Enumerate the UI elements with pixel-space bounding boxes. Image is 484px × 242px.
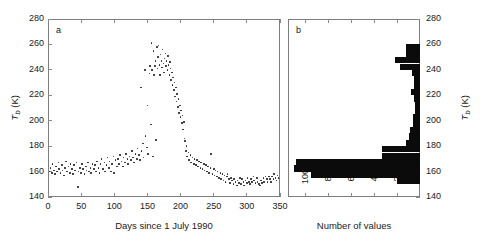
- panel-a-xtick: [246, 193, 247, 197]
- scatter-point: [125, 153, 127, 155]
- histogram-bar: [415, 108, 420, 114]
- scatter-point: [149, 65, 151, 67]
- scatter-point: [161, 67, 163, 69]
- scatter-point: [167, 55, 169, 57]
- panel-a-xtick-label: 250: [200, 202, 228, 211]
- scatter-point: [82, 168, 84, 170]
- scatter-point: [169, 61, 171, 63]
- panel-b-ytick-label: 160: [426, 167, 452, 176]
- panel-b-ytick: [416, 197, 420, 198]
- scatter-point: [155, 60, 157, 62]
- scatter-point: [263, 181, 265, 183]
- scatter-point: [163, 72, 165, 74]
- panel-b-letter: b: [296, 26, 301, 35]
- histogram-bar: [414, 83, 420, 89]
- panel-a-xtick: [213, 193, 214, 197]
- scatter-point: [64, 167, 66, 169]
- panel-b-xtick: [397, 193, 398, 197]
- panel-a-xtick-label: 100: [100, 202, 128, 211]
- histogram-bar: [406, 44, 420, 50]
- scatter-point: [151, 42, 153, 44]
- panel-a-ytick-label: 140: [14, 192, 44, 201]
- panel-a-xtick-top: [246, 19, 247, 23]
- panel-a-ytick-label: 200: [14, 116, 44, 125]
- panel-a-plot-frame: [48, 19, 280, 197]
- panel-b-xtick-top: [351, 19, 352, 23]
- panel-a-ytick: [48, 197, 52, 198]
- scatter-point: [65, 161, 67, 163]
- scatter-point: [74, 170, 76, 172]
- panel-a-xtick-top: [81, 19, 82, 23]
- panel-a-xtick-label: 150: [133, 202, 161, 211]
- panel-a-ytick-label: 240: [14, 65, 44, 74]
- scatter-point: [77, 186, 79, 188]
- histogram-bar: [413, 121, 420, 127]
- scatter-point: [154, 65, 156, 67]
- scatter-point: [152, 156, 154, 158]
- panel-a-ytick-label: 160: [14, 167, 44, 176]
- scatter-point: [178, 112, 180, 114]
- panel-a-ytick-label: 180: [14, 141, 44, 150]
- scatter-point: [54, 173, 56, 175]
- histogram-bar: [414, 76, 420, 82]
- scatter-point: [222, 173, 224, 175]
- scatter-point: [230, 177, 232, 179]
- panel-b-ytick-label: 220: [426, 90, 452, 99]
- panel-a-xtick-label: 300: [233, 202, 261, 211]
- scatter-point: [93, 168, 95, 170]
- panel-a-xtick: [48, 193, 49, 197]
- scatter-point: [270, 181, 272, 183]
- scatter-point: [58, 168, 60, 170]
- scatter-point: [80, 172, 82, 174]
- scatter-point: [157, 56, 159, 58]
- scatter-point: [119, 154, 121, 156]
- panel-a-xtick-top: [213, 19, 214, 23]
- scatter-point: [146, 147, 148, 149]
- scatter-point: [177, 106, 179, 108]
- scatter-point: [111, 163, 113, 165]
- scatter-point: [233, 178, 235, 180]
- scatter-point: [156, 46, 158, 48]
- scatter-point: [145, 135, 147, 137]
- scatter-point: [92, 163, 94, 165]
- scatter-point: [100, 163, 102, 165]
- scatter-point: [63, 175, 65, 177]
- scatter-point: [108, 167, 110, 169]
- histogram-bar: [382, 146, 420, 152]
- scatter-point: [250, 178, 252, 180]
- panel-b-ylabel: Tb (K): [460, 84, 472, 132]
- scatter-point: [263, 177, 265, 179]
- scatter-point: [131, 150, 133, 152]
- scatter-point: [51, 172, 53, 174]
- panel-a-xtick: [81, 193, 82, 197]
- panel-b-ytick-label: 180: [426, 141, 452, 150]
- scatter-point: [113, 172, 115, 174]
- scatter-point: [210, 153, 212, 155]
- panel-b-ytick: [416, 19, 420, 20]
- panel-b-xtick: [328, 193, 329, 197]
- scatter-point: [184, 140, 186, 142]
- scatter-point: [159, 74, 161, 76]
- scatter-point: [188, 159, 190, 161]
- histogram-bar: [311, 172, 420, 178]
- scatter-point: [210, 167, 212, 169]
- panel-a-ytick-label: 220: [14, 90, 44, 99]
- panel-a-ytick-label: 260: [14, 39, 44, 48]
- scatter-point: [251, 181, 253, 183]
- scatter-point: [248, 181, 250, 183]
- panel-a-ytick: [48, 95, 52, 96]
- scatter-point: [139, 159, 141, 161]
- scatter-point: [241, 178, 243, 180]
- scatter-point: [130, 159, 132, 161]
- histogram-bar: [414, 95, 420, 101]
- scatter-point: [81, 163, 83, 165]
- scatter-point: [202, 168, 204, 170]
- panel-b-xtick: [351, 193, 352, 197]
- scatter-point: [273, 173, 275, 175]
- panel-a-xtick: [280, 193, 281, 197]
- panel-a-xtick-top: [280, 19, 281, 23]
- scatter-point: [71, 168, 73, 170]
- scatter-point: [220, 178, 222, 180]
- scatter-point: [220, 172, 222, 174]
- scatter-point: [275, 177, 277, 179]
